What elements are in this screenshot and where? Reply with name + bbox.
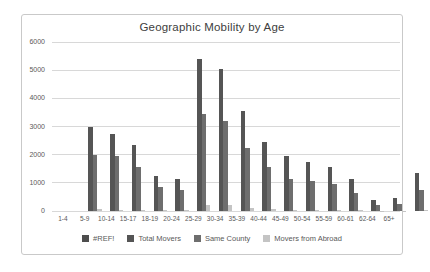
legend-item: Same County [194,234,250,243]
bar-same-county [419,190,423,211]
y-axis-tick-label: 3000 [19,123,45,130]
x-axis-tick-label: 35-39 [226,215,248,222]
bar-group [126,42,148,211]
bar-same-county [158,187,162,211]
bar-same-county [136,167,140,211]
bar-movers-from-abroad [358,210,362,211]
bar-group [343,42,365,211]
chart-frame: Geographic Mobility by Age 0100020003000… [21,14,403,255]
legend-label: Same County [205,234,250,243]
x-axis-tick-label: 50-54 [291,215,313,222]
x-axis-tick-label: 60-61 [335,215,357,222]
y-axis: 0100020003000400050006000 [22,42,48,211]
bar-movers-from-abroad [228,205,232,211]
bar-group [300,42,322,211]
bar-group [365,42,387,211]
bar-same-county [267,167,271,211]
x-axis-tick-label: 62-64 [357,215,379,222]
x-axis-tick-label: 30-34 [204,215,226,222]
bar-group [234,42,256,211]
legend: #REF!Total MoversSame CountyMovers from … [22,234,402,243]
bar-same-county [202,114,206,211]
legend-swatch [194,235,201,242]
x-axis-tick-label: 5-9 [74,215,96,222]
x-axis-tick-label: 20-24 [161,215,183,222]
plot-area [52,42,400,211]
bar-group [191,42,213,211]
legend-swatch [263,235,270,242]
bar-same-county [332,184,336,211]
bar-movers-from-abroad [271,209,275,211]
bar-same-county [115,156,119,211]
chart-title: Geographic Mobility by Age [22,21,402,33]
bar-group [256,42,278,211]
bar-movers-from-abroad [206,205,210,211]
legend-item: Total Movers [127,234,181,243]
y-axis-tick-label: 2000 [19,151,45,158]
bar-same-county [354,193,358,211]
bar-same-county [180,190,184,211]
legend-label: Total Movers [138,234,181,243]
bar-same-county [310,181,314,211]
bar-same-county [245,148,249,211]
y-axis-tick-label: 0 [19,207,45,214]
x-axis-tick-label: 40-44 [248,215,270,222]
legend-label: #REF! [93,234,114,243]
y-axis-tick-label: 1000 [19,179,45,186]
y-axis-tick-label: 4000 [19,94,45,101]
bar-group [278,42,300,211]
bar-movers-from-abroad [250,208,254,211]
bar-same-county [289,179,293,211]
bar-same-county [223,121,227,211]
bar-movers-from-abroad [293,210,297,211]
legend-swatch [82,235,89,242]
x-axis-tick-label: 45-49 [270,215,292,222]
bar-movers-from-abroad [141,210,145,211]
y-axis-tick-label: 6000 [19,38,45,45]
bar-movers-from-abroad [163,210,167,211]
bar-group [147,42,169,211]
bar-group [387,42,409,211]
bar-group [82,42,104,211]
x-axis-tick-label: 15-17 [117,215,139,222]
legend-item: Movers from Abroad [263,234,342,243]
bar-group [169,42,191,211]
x-axis-tick-label: 65+ [378,215,400,222]
bar-group [408,42,430,211]
legend-swatch [127,235,134,242]
bar-movers-from-abroad [315,210,319,211]
bar-movers-from-abroad [424,210,428,211]
x-axis-tick-label: 55-59 [313,215,335,222]
bar-group [104,42,126,211]
x-axis-tick-label: 1-4 [52,215,74,222]
bar-movers-from-abroad [337,210,341,211]
bar-movers-from-abroad [97,209,101,211]
bar-movers-from-abroad [119,210,123,211]
x-axis-tick-label: 18-19 [139,215,161,222]
bar-same-county [93,155,97,211]
y-axis-tick-label: 5000 [19,66,45,73]
x-axis-tick-label: 25-29 [183,215,205,222]
bar-group [321,42,343,211]
bar-group [213,42,235,211]
legend-label: Movers from Abroad [274,234,342,243]
bar-movers-from-abroad [184,210,188,211]
x-axis-tick-label: 10-14 [96,215,118,222]
legend-item: #REF! [82,234,114,243]
